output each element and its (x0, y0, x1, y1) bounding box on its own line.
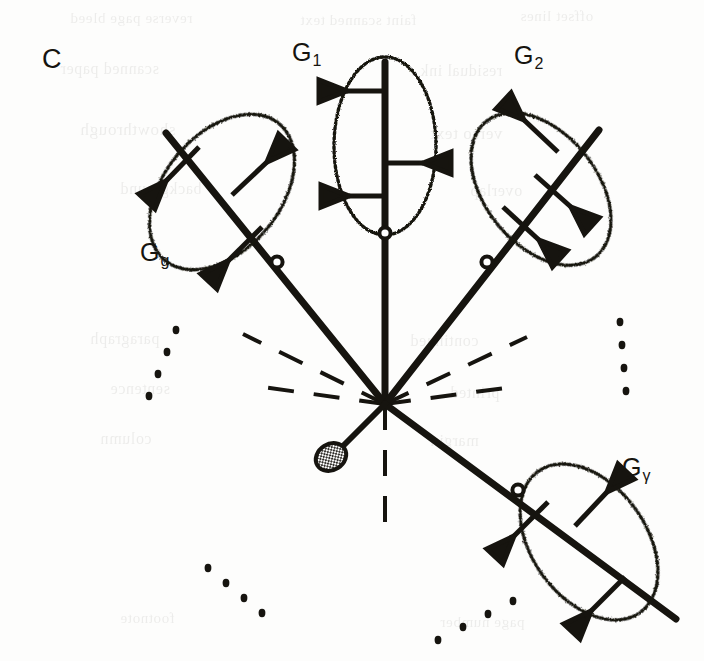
tree-drawing (0, 0, 704, 661)
clade-g2-arrowhead-3 (532, 232, 568, 267)
ellipsis-bottom-left-dot (241, 594, 248, 602)
ray-ggamma (385, 404, 676, 619)
clade-gg-arrowhead-3 (201, 253, 236, 288)
ellipsis-bottom-right-dot (460, 623, 467, 631)
ellipsis-bottom-right-dot (510, 597, 517, 605)
ellipsis-right-dot (619, 341, 626, 349)
ellipsis-left-dot (164, 348, 171, 356)
ellipsis-left (146, 326, 180, 400)
ellipsis-right-dot (623, 387, 630, 395)
clade-g2-arrowhead-1 (496, 93, 531, 128)
clade-ggamma-branch-1 (575, 492, 607, 526)
clade-label-ggamma-base: G (622, 453, 641, 481)
clade-label-g1: G1 (292, 40, 320, 65)
ellipsis-right (617, 318, 630, 395)
ellipsis-left-dot (173, 326, 180, 334)
stub-line (340, 404, 385, 449)
clade-gg-root-node (271, 256, 282, 267)
ellipsis-right-dot (621, 364, 628, 372)
ellipsis-left-dot (146, 392, 153, 400)
ellipsis-left-dot (155, 370, 162, 378)
ellipsis-right-dot (617, 318, 624, 326)
panel-letter: C (42, 44, 62, 75)
ellipsis-bottom-right-dot (485, 610, 492, 618)
clade-label-gg: Gg (140, 240, 168, 265)
figure-panel-c: reverse page bleedfaint scanned textoffs… (0, 0, 704, 661)
clade-label-g1-sub: 1 (312, 52, 321, 69)
clade-label-g2: G2 (514, 43, 542, 68)
clade-label-g2-base: G (514, 41, 533, 69)
clade-g2-outline (443, 86, 640, 292)
clade-g1-root-node (379, 227, 390, 238)
clade-gg-branch-2 (232, 162, 267, 195)
clade-g1-arrowhead-2 (423, 152, 451, 174)
clade-ggamma-branch-3 (591, 577, 625, 611)
clade-ggamma-root-node (512, 484, 523, 495)
ellipsis-bottom-left-dot (223, 579, 230, 587)
ellipsis-bottom-right-dot (435, 636, 442, 644)
clade-label-g1-base: G (292, 38, 311, 66)
ellipsis-bottom-right (435, 597, 517, 644)
clade-ggamma (487, 438, 686, 646)
ellipsis-bottom-left (205, 564, 266, 617)
clade-ggamma-arrowhead-2 (487, 528, 522, 563)
clade-g2-arrowhead-2 (564, 199, 600, 234)
solid-rays-group (166, 62, 676, 619)
clade-label-g2-sub: 2 (534, 55, 543, 72)
clade-g2-root-node (481, 256, 492, 267)
ellipsis-bottom-left-dot (205, 564, 212, 572)
clade-label-gg-base: G (140, 238, 159, 266)
clade-label-ggamma-sub: γ (642, 467, 650, 484)
stippled-node-group (311, 404, 385, 477)
clade-gg-arrowhead-1 (139, 173, 174, 208)
ellipsis-bottom-left-dot (259, 609, 266, 617)
clade-label-gg-sub: g (160, 252, 169, 269)
clade-g2 (443, 86, 640, 292)
clade-label-ggamma: Gγ (622, 455, 649, 480)
